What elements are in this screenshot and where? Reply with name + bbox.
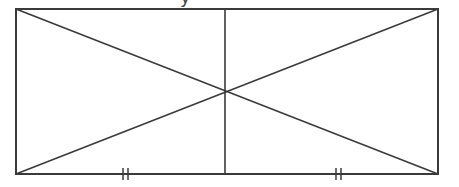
geometry-diagram xyxy=(0,0,459,187)
